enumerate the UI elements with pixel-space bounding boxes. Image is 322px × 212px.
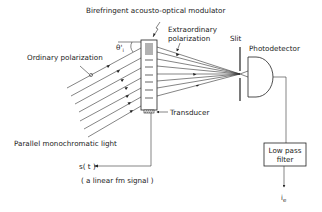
ordinary-label: Ordinary polarization (27, 53, 103, 62)
signal-label: s( t ) (79, 162, 96, 171)
slit-label: Slit (230, 34, 242, 43)
acousto-optic-diagram: Birefringent acousto-optical modulator O… (0, 0, 322, 212)
signal-note: ( a linear fm signal ) (81, 176, 154, 185)
filter-label-line2: filter (277, 155, 294, 164)
filter-label-line1: Low pass (269, 146, 302, 155)
modulator-label: Birefringent acousto-optical modulator (86, 6, 226, 15)
photodetector (248, 57, 273, 97)
transducer-label: Transducer (169, 108, 209, 117)
extraordinary-leader (177, 43, 180, 51)
angle-label: θ'i (116, 43, 124, 53)
detector-output-wire (273, 77, 286, 143)
output-label: ie (281, 194, 287, 203)
diffracted-rays (157, 47, 248, 96)
ordinary-leader (80, 66, 89, 74)
photodetector-label: Photodetector (249, 44, 300, 53)
extraordinary-label-line1: Extraordinary (168, 25, 218, 34)
angle-arc (131, 42, 133, 52)
light-label: Parallel monochromatic light (14, 139, 117, 148)
extraordinary-label-line2: polarization (168, 34, 210, 43)
acoustic-wavefronts (145, 44, 153, 98)
